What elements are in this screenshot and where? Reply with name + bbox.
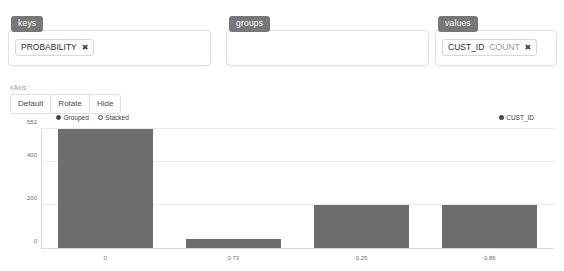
xaxis-control: xAxis : Default Rotate Hide	[10, 84, 121, 114]
bar-chart: 0200400552 00.730.250.86	[0, 124, 564, 271]
xaxis-hide-button[interactable]: Hide	[89, 94, 121, 114]
y-axis-tick-label: 552	[27, 119, 37, 126]
field-chip-name: PROBABILITY	[21, 42, 77, 53]
xaxis-button-group: Default Rotate Hide	[10, 94, 121, 114]
field-chip-probability[interactable]: PROBABILITY ✖	[15, 39, 94, 56]
xaxis-control-label: xAxis :	[10, 84, 121, 92]
y-axis-ticks: 0200400552	[0, 129, 41, 248]
x-axis-tick-label: 0.73	[228, 255, 240, 262]
y-axis-tick-label: 200	[27, 194, 37, 201]
x-axis-line	[41, 248, 554, 249]
chart-builder-app: keys PROBABILITY ✖ groups values CUST_ID…	[0, 0, 564, 271]
y-axis-tick-label: 0	[34, 238, 37, 245]
dropzone-values[interactable]: values CUST_ID COUNT ✖	[435, 12, 557, 66]
bar-mode-selector: Grouped Stacked	[56, 114, 129, 121]
x-axis-ticks: 00.730.250.86	[41, 255, 554, 265]
bar[interactable]	[442, 205, 537, 248]
bar-mode-grouped-label: Grouped	[64, 114, 89, 121]
bar-mode-stacked[interactable]: Stacked	[98, 114, 129, 121]
field-chip-aggregate: COUNT	[489, 42, 519, 53]
bar[interactable]	[58, 129, 153, 248]
dropzone-groups-area[interactable]	[226, 30, 429, 66]
series-legend-label: CUST_ID	[506, 114, 534, 121]
dropzone-groups[interactable]: groups	[226, 12, 429, 66]
dropzone-keys-label: keys	[11, 16, 43, 32]
xaxis-default-button[interactable]: Default	[10, 94, 51, 114]
plot-area	[41, 129, 554, 248]
dropzone-values-area[interactable]: CUST_ID COUNT ✖	[435, 30, 557, 66]
dropzone-keys[interactable]: keys PROBABILITY ✖	[8, 12, 211, 66]
dropzone-keys-area[interactable]: PROBABILITY ✖	[8, 30, 211, 66]
remove-icon[interactable]: ✖	[525, 42, 532, 53]
radio-selected-icon[interactable]	[56, 115, 61, 120]
series-legend-cust-id[interactable]: CUST_ID	[499, 114, 534, 121]
field-chip-name: CUST_ID	[448, 42, 484, 53]
radio-unselected-icon[interactable]	[98, 115, 103, 120]
x-axis-tick-label: 0.25	[356, 255, 368, 262]
bar-mode-grouped[interactable]: Grouped	[56, 114, 89, 121]
field-chip-cust-id[interactable]: CUST_ID COUNT ✖	[442, 39, 537, 56]
legend-marker-icon	[499, 115, 504, 120]
bar[interactable]	[186, 239, 281, 248]
x-axis-tick-label: 0	[103, 255, 106, 262]
bar-mode-stacked-label: Stacked	[105, 114, 129, 121]
bar[interactable]	[314, 205, 409, 248]
y-axis-tick-label: 400	[27, 151, 37, 158]
dropzone-groups-label: groups	[229, 16, 270, 32]
dropzone-row: keys PROBABILITY ✖ groups values CUST_ID…	[0, 0, 564, 72]
x-axis-tick-label: 0.86	[484, 255, 496, 262]
dropzone-values-label: values	[438, 16, 478, 32]
remove-icon[interactable]: ✖	[82, 42, 89, 53]
xaxis-rotate-button[interactable]: Rotate	[50, 94, 90, 114]
